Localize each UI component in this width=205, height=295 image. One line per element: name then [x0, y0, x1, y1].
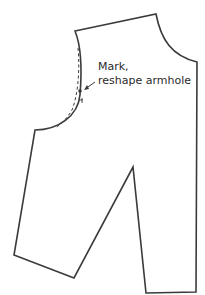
mark-point: [78, 89, 82, 93]
reshaped-armhole-dashed-line: [55, 48, 79, 128]
annotation-line-1: Mark,: [98, 60, 191, 74]
annotation-label: Mark, reshape armhole: [98, 60, 191, 88]
pattern-diagram: [0, 0, 205, 295]
arrowhead-icon: [84, 85, 89, 90]
annotation-line-2: reshape armhole: [98, 74, 191, 88]
pattern-outline: [14, 14, 197, 293]
